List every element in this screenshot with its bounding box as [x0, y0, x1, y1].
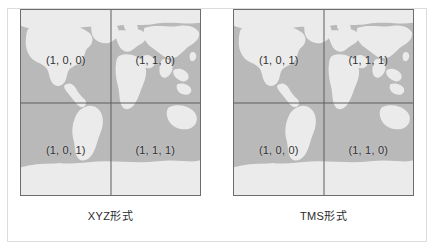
- quadrant-bottom-left: (1, 0, 0): [234, 103, 324, 196]
- quadrant-label-grid: (1, 0, 0) (1, 1, 0) (1, 0, 1) (1, 1, 1): [21, 10, 200, 195]
- quadrant-top-left: (1, 0, 1): [234, 10, 324, 103]
- figure-frame: (1, 0, 0) (1, 1, 0) (1, 0, 1) (1, 1, 1) …: [7, 8, 427, 242]
- panel-caption-xyz: XYZ形式: [20, 207, 201, 223]
- quadrant-label: (1, 0, 0): [259, 144, 299, 156]
- quadrant-label: (1, 0, 1): [259, 54, 299, 66]
- quadrant-bottom-left: (1, 0, 1): [21, 103, 111, 196]
- quadrant-label: (1, 0, 0): [46, 54, 86, 66]
- map-tile-xyz: (1, 0, 0) (1, 1, 0) (1, 0, 1) (1, 1, 1): [20, 9, 201, 196]
- panel-caption-tms: TMS形式: [233, 207, 414, 223]
- panel-tms: (1, 0, 1) (1, 1, 1) (1, 0, 0) (1, 1, 0) …: [233, 9, 414, 223]
- quadrant-label: (1, 1, 0): [348, 144, 388, 156]
- quadrant-bottom-right: (1, 1, 1): [111, 103, 201, 196]
- quadrant-label: (1, 0, 1): [46, 144, 86, 156]
- quadrant-top-right: (1, 1, 1): [324, 10, 414, 103]
- panel-xyz: (1, 0, 0) (1, 1, 0) (1, 0, 1) (1, 1, 1) …: [20, 9, 201, 223]
- quadrant-label: (1, 1, 1): [135, 144, 175, 156]
- quadrant-top-right: (1, 1, 0): [111, 10, 201, 103]
- map-tile-tms: (1, 0, 1) (1, 1, 1) (1, 0, 0) (1, 1, 0): [233, 9, 414, 196]
- quadrant-label: (1, 1, 0): [135, 54, 175, 66]
- quadrant-label: (1, 1, 1): [348, 54, 388, 66]
- quadrant-top-left: (1, 0, 0): [21, 10, 111, 103]
- quadrant-bottom-right: (1, 1, 0): [324, 103, 414, 196]
- quadrant-label-grid: (1, 0, 1) (1, 1, 1) (1, 0, 0) (1, 1, 0): [234, 10, 413, 195]
- panel-row: (1, 0, 0) (1, 1, 0) (1, 0, 1) (1, 1, 1) …: [8, 9, 426, 241]
